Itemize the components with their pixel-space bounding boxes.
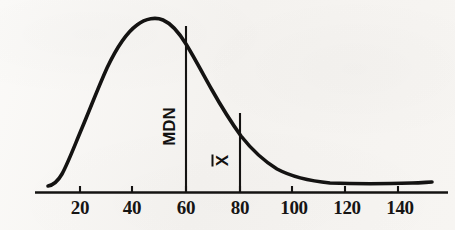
- distribution-plot: [0, 0, 455, 230]
- x-bar-letter: X: [213, 155, 232, 166]
- x-bar-glyph: X: [214, 155, 231, 166]
- overbar: [212, 155, 214, 166]
- distribution-figure: 20 40 60 80 100 120 140 MDN X: [0, 0, 455, 230]
- x-tick-label-20: 20: [71, 198, 89, 217]
- x-tick-label-100: 100: [280, 198, 308, 217]
- x-tick-label-80: 80: [231, 198, 249, 217]
- x-tick-label-120: 120: [333, 198, 361, 217]
- median-marker-label: MDN: [161, 105, 178, 149]
- mean-marker-label: X: [214, 150, 231, 172]
- x-tick-label-40: 40: [123, 198, 141, 217]
- x-tick-label-140: 140: [386, 198, 414, 217]
- x-tick-label-60: 60: [177, 198, 195, 217]
